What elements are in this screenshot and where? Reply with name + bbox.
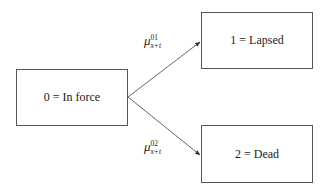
state-lapsed: 1 = Lapsed (201, 12, 313, 69)
state-dead: 2 = Dead (201, 125, 313, 183)
arrow-0-to-2 (128, 97, 200, 155)
arrow-0-to-1 (128, 42, 200, 97)
transition-rate-02: μ 02 x+t (144, 140, 161, 156)
rate-subscript: x+t (151, 42, 161, 50)
state-in-force: 0 = In force (16, 69, 128, 126)
rate-subscript: x+t (151, 148, 161, 156)
transition-rate-01: μ 01 x+t (144, 34, 161, 50)
state-lapsed-label: 1 = Lapsed (230, 33, 283, 48)
state-dead-label: 2 = Dead (235, 147, 279, 162)
state-in-force-label: 0 = In force (44, 90, 100, 105)
